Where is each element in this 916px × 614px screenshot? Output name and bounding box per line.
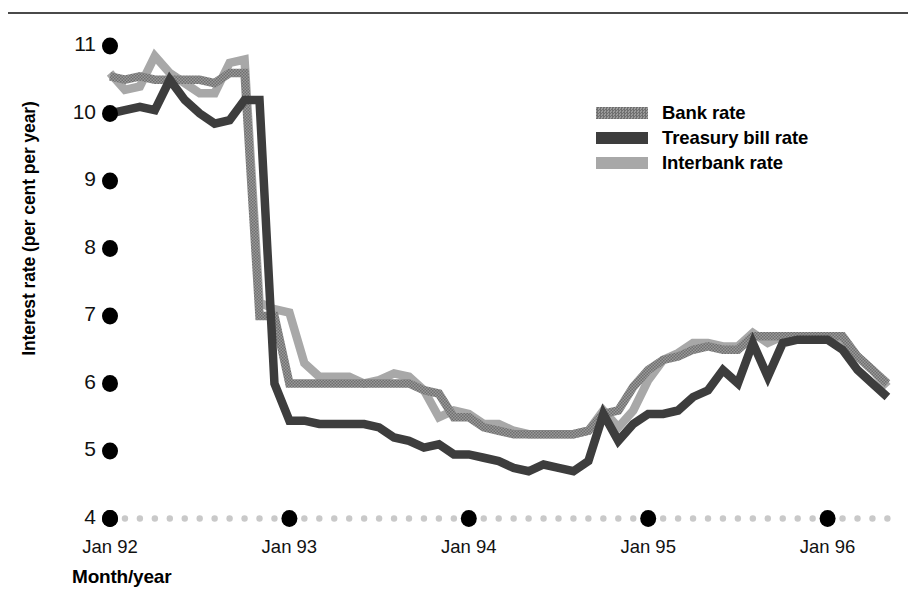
x-tick-dot-minor — [122, 515, 128, 521]
y-tick-label: 8 — [62, 235, 96, 259]
x-tick-dot-minor — [720, 515, 726, 521]
x-tick-dot-minor — [421, 515, 427, 521]
x-tick-dot-minor — [765, 515, 771, 521]
y-tick-label: 10 — [62, 100, 96, 124]
x-tick-dot-minor — [496, 515, 502, 521]
x-tick-dot-minor — [690, 515, 696, 521]
x-tick-label: Jan 94 — [409, 536, 529, 558]
legend-item: Bank rate — [596, 100, 808, 125]
x-tick-dot-minor — [256, 515, 262, 521]
chart-page: Interest rate (per cent per year) 111098… — [0, 0, 916, 614]
x-tick-dot-minor — [750, 515, 756, 521]
line-chart-plot — [0, 0, 916, 614]
y-tick-dot — [102, 510, 118, 527]
x-tick-dot-minor — [406, 515, 412, 521]
x-tick-dot-minor — [675, 515, 681, 521]
x-tick-label: Jan 93 — [229, 536, 349, 558]
x-tick-dot-minor — [361, 515, 367, 521]
y-tick-dot — [102, 240, 118, 257]
x-tick-label: Jan 92 — [50, 536, 170, 558]
x-tick-dot-minor — [241, 515, 247, 521]
x-tick-label: Jan 96 — [768, 536, 888, 558]
x-tick-dot-minor — [660, 515, 666, 521]
x-tick-dot-minor — [182, 515, 188, 521]
chart-legend: Bank rateTreasury bill rateInterbank rat… — [596, 100, 808, 175]
y-axis-tick-dots — [102, 38, 118, 528]
x-tick-dot-minor — [555, 515, 561, 521]
y-tick-dot — [102, 173, 118, 190]
legend-label: Bank rate — [662, 102, 745, 124]
x-tick-dot-minor — [869, 515, 875, 521]
legend-swatch — [596, 157, 648, 169]
x-tick-dot-minor — [510, 515, 516, 521]
x-tick-dot-minor — [705, 515, 711, 521]
y-tick-dot — [102, 308, 118, 325]
x-tick-dot-minor — [795, 515, 801, 521]
x-tick-dot-major — [461, 510, 477, 527]
x-tick-dot-minor — [167, 515, 173, 521]
y-tick-label: 6 — [62, 370, 96, 394]
y-tick-dot — [102, 375, 118, 392]
x-tick-dot-minor — [615, 515, 621, 521]
x-tick-dot-minor — [600, 515, 606, 521]
x-tick-dot-major — [820, 510, 836, 527]
x-tick-dot-minor — [735, 515, 741, 521]
legend-label: Interbank rate — [662, 152, 783, 174]
y-tick-label: 7 — [62, 302, 96, 326]
legend-item: Interbank rate — [596, 150, 808, 175]
x-tick-dot-minor — [884, 515, 890, 521]
x-tick-dot-minor — [376, 515, 382, 521]
x-tick-dot-minor — [540, 515, 546, 521]
x-tick-dot-major — [640, 510, 656, 527]
x-tick-dot-minor — [451, 515, 457, 521]
x-tick-dot-minor — [780, 515, 786, 521]
x-tick-dot-minor — [391, 515, 397, 521]
y-tick-label: 11 — [62, 32, 96, 56]
y-tick-label: 9 — [62, 167, 96, 191]
x-tick-dot-minor — [331, 515, 337, 521]
x-tick-dot-minor — [197, 515, 203, 521]
y-tick-label: 5 — [62, 437, 96, 461]
x-tick-dot-minor — [301, 515, 307, 521]
legend-label: Treasury bill rate — [662, 127, 808, 149]
y-tick-label: 4 — [62, 505, 96, 529]
x-tick-dot-minor — [211, 515, 217, 521]
x-tick-dot-minor — [271, 515, 277, 521]
x-tick-dot-minor — [436, 515, 442, 521]
y-tick-dot — [102, 443, 118, 460]
x-tick-dot-minor — [809, 515, 815, 521]
x-tick-dot-minor — [226, 515, 232, 521]
y-tick-dot — [102, 105, 118, 122]
x-tick-label: Jan 95 — [588, 536, 708, 558]
x-tick-dot-minor — [152, 515, 158, 521]
x-tick-dot-minor — [346, 515, 352, 521]
x-tick-dot-minor — [839, 515, 845, 521]
x-tick-dot-minor — [316, 515, 322, 521]
y-tick-dot — [102, 38, 118, 55]
x-tick-dot-minor — [585, 515, 591, 521]
x-tick-dot-minor — [137, 515, 143, 521]
x-tick-dot-minor — [481, 515, 487, 521]
legend-item: Treasury bill rate — [596, 125, 808, 150]
x-axis-tick-dots — [102, 510, 891, 527]
x-tick-dot-major — [281, 510, 297, 527]
legend-swatch — [596, 132, 648, 144]
legend-swatch — [596, 107, 648, 119]
x-tick-dot-minor — [630, 515, 636, 521]
x-tick-dot-minor — [525, 515, 531, 521]
x-axis-title: Month/year — [72, 566, 171, 588]
x-tick-dot-minor — [570, 515, 576, 521]
x-tick-dot-minor — [854, 515, 860, 521]
